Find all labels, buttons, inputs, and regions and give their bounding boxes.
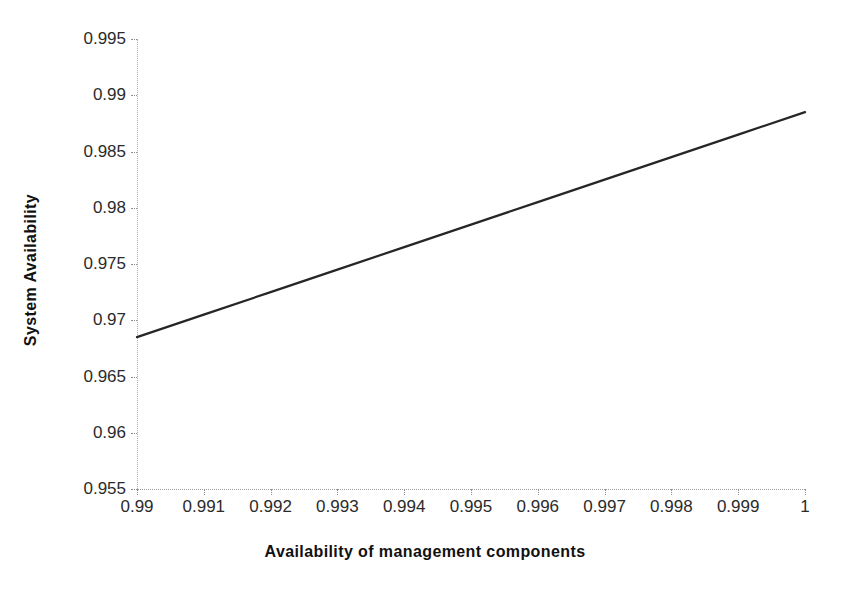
y-tick-label: 0.99 (93, 86, 126, 103)
x-tick-mark (605, 489, 606, 495)
y-tick-label: 0.985 (83, 143, 126, 160)
y-tick-label: 0.975 (83, 255, 126, 272)
data-series-line (137, 39, 805, 489)
y-tick-label: 0.965 (83, 368, 126, 385)
x-tick-mark (471, 489, 472, 495)
y-tick-label: 0.97 (93, 311, 126, 328)
x-tick-label: 0.993 (316, 498, 359, 515)
chart-container: System Availability 0.9950.990.9850.980.… (0, 0, 850, 596)
x-tick-mark (137, 489, 138, 495)
y-tick-label: 0.98 (93, 199, 126, 216)
plot-area (137, 39, 805, 489)
y-tick-mark (131, 489, 137, 490)
x-tick-mark (538, 489, 539, 495)
series-polyline (137, 112, 805, 337)
x-tick-label: 0.99 (120, 498, 153, 515)
x-tick-label: 0.998 (650, 498, 693, 515)
x-tick-label: 0.992 (249, 498, 292, 515)
x-tick-mark (204, 489, 205, 495)
y-tick-label: 0.995 (83, 30, 126, 47)
x-axis-title: Availability of management components (0, 543, 850, 561)
y-tick-label: 0.96 (93, 424, 126, 441)
x-tick-mark (404, 489, 405, 495)
x-tick-mark (271, 489, 272, 495)
x-axis-tick-labels: 0.990.9910.9920.9930.9940.9950.9960.9970… (0, 498, 850, 522)
x-tick-label: 0.991 (183, 498, 226, 515)
x-tick-label: 1 (800, 498, 809, 515)
x-tick-label: 0.997 (583, 498, 626, 515)
x-tick-label: 0.996 (517, 498, 560, 515)
x-tick-label: 0.999 (717, 498, 760, 515)
y-tick-label: 0.955 (83, 480, 126, 497)
x-tick-mark (738, 489, 739, 495)
x-tick-mark (805, 489, 806, 495)
x-tick-mark (671, 489, 672, 495)
x-tick-mark (337, 489, 338, 495)
x-tick-label: 0.995 (450, 498, 493, 515)
x-tick-label: 0.994 (383, 498, 426, 515)
